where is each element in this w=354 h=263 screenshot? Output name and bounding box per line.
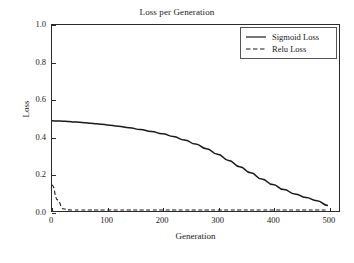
x-tick-mark (52, 208, 53, 212)
x-tick-mark (163, 208, 164, 212)
legend-solid-line-icon (245, 32, 267, 42)
legend-item-relu-loss: Relu Loss (245, 43, 332, 55)
y-axis-label: Loss (21, 74, 31, 144)
chart-figure: Loss per Generation 0.00.20.40.60.81.0 0… (0, 0, 354, 263)
y-tick-mark (52, 138, 56, 139)
x-tick-mark (219, 208, 220, 212)
series-line (52, 185, 328, 210)
x-tick-label: 500 (309, 215, 349, 225)
y-tick-mark (52, 63, 56, 64)
series-line (52, 121, 328, 206)
chart-legend: Sigmoid Loss Relu Loss (240, 27, 337, 59)
y-tick-mark (52, 100, 56, 101)
y-tick-label: 0.8 (8, 57, 46, 67)
x-tick-label: 100 (87, 215, 127, 225)
legend-item-sigmoid-loss: Sigmoid Loss (245, 31, 332, 43)
x-tick-label: 400 (253, 215, 293, 225)
x-tick-mark (108, 208, 109, 212)
x-axis-label: Generation (51, 231, 340, 241)
x-tick-label: 300 (198, 215, 238, 225)
y-tick-mark (52, 25, 56, 26)
y-tick-mark (52, 213, 56, 214)
chart-title: Loss per Generation (0, 7, 354, 17)
y-tick-mark (52, 175, 56, 176)
x-tick-mark (330, 208, 331, 212)
y-tick-label: 0.2 (8, 169, 46, 179)
x-tick-label: 0 (31, 215, 71, 225)
x-tick-label: 200 (142, 215, 182, 225)
y-tick-label: 1.0 (8, 19, 46, 29)
y-tick-label: 0.0 (8, 207, 46, 217)
legend-label: Sigmoid Loss (272, 32, 319, 42)
x-tick-mark (274, 208, 275, 212)
legend-label: Relu Loss (272, 44, 306, 54)
legend-dashed-line-icon (245, 44, 267, 54)
